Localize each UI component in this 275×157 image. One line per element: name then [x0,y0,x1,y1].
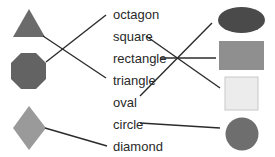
line-diamond [45,128,107,146]
rectangle-shape [219,41,264,70]
label-octagon: octagon [113,8,159,22]
label-diamond: diamond [113,140,163,154]
octagon-shape [11,53,46,89]
label-square: square [113,30,153,44]
diamond-shape [13,106,46,150]
label-oval: oval [113,96,137,110]
triangle-shape [13,9,45,37]
circle-shape [226,118,259,151]
line-octagon [46,15,106,62]
label-rectangle: rectangle [113,52,166,66]
line-circle [140,123,220,128]
square-shape [225,77,258,110]
label-circle: circle [113,118,143,132]
shape-matching-diagram: octagon square rectangle triangle oval c… [0,0,275,157]
label-triangle: triangle [113,74,156,88]
oval-shape [218,7,265,33]
